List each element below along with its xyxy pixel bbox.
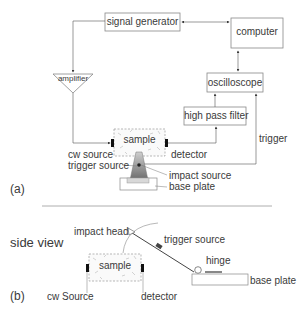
cw-source-label-b: cw Source: [47, 292, 94, 302]
panel-b-tag: (b): [10, 290, 25, 302]
detector-transducer-b: [141, 264, 144, 272]
amp-cw-link: [73, 93, 110, 143]
side-view-title: side view: [10, 236, 63, 249]
detector-transducer-a: [165, 139, 168, 147]
cw-source-label-a: cw source: [68, 150, 113, 160]
diagram-canvas: [0, 0, 300, 313]
trigger-source-label-a: trigger source: [68, 161, 129, 171]
sg-amp-link: [73, 21, 105, 72]
base-plate-b: [192, 274, 248, 285]
high-pass-filter-label: high pass filter: [184, 111, 246, 121]
sample-label-b: sample: [89, 261, 141, 271]
sample-label-a: sample: [114, 135, 165, 145]
base-plate-label-b: base plate: [250, 276, 296, 286]
base-plate-a: [120, 178, 157, 190]
oscilloscope-label: oscilloscope: [207, 78, 263, 88]
det-hpf-link: [167, 127, 216, 143]
hinge-label: hinge: [206, 256, 230, 266]
computer-label: computer: [231, 27, 283, 37]
trigger-label: trigger: [259, 134, 287, 144]
detector-label-b: detector: [141, 292, 177, 302]
base-plate-label-a: base plate: [169, 182, 215, 192]
detector-label-a: detector: [171, 150, 207, 160]
signal-generator-label: signal generator: [105, 17, 180, 27]
trigger-source-dot-a: [137, 163, 141, 167]
hinge: [195, 267, 202, 274]
trigger-source-label-b: trigger source: [164, 235, 225, 245]
panel-a-tag: (a): [10, 183, 25, 195]
impact-source-label: impact source: [169, 171, 231, 181]
amplifier-label: amplifier: [55, 75, 91, 83]
impact-head-label: impact head: [74, 227, 128, 237]
